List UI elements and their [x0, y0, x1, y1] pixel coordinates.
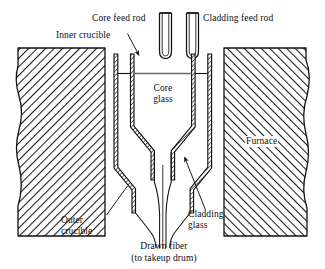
diagram-canvas [0, 0, 325, 269]
fiber-drawing-diagram: Core feed rod Cladding feed rod Inner cr… [0, 0, 325, 269]
leader-cladding-glass [185, 157, 206, 210]
label-drawn-fiber-line1: Drawn fiber [108, 241, 220, 252]
drawn-fiber [136, 152, 191, 248]
furnace-block-left [16, 48, 105, 236]
label-inner-crucible: Inner crucible [56, 30, 110, 41]
leader-outer-crucible [107, 186, 128, 215]
label-cladding-feed-rod: Cladding feed rod [203, 13, 273, 24]
label-cladding-glass-line2: glass [188, 220, 208, 231]
label-furnace: Furnace [245, 136, 278, 147]
leader-inner-crucible [128, 34, 140, 56]
label-drawn-fiber-line2: (to takeup drum) [108, 253, 220, 264]
label-core-feed-rod: Core feed rod [92, 13, 146, 24]
label-core-glass-line2: glass [142, 94, 184, 105]
cladding-feed-rod [187, 13, 199, 59]
label-cladding-glass-line1: Cladding [188, 209, 224, 220]
label-outer-crucible-line1: Outer [61, 215, 83, 226]
core-feed-rod [160, 13, 172, 59]
label-core-glass-line1: Core [142, 83, 184, 94]
label-outer-crucible-line2: crucible [61, 226, 92, 237]
